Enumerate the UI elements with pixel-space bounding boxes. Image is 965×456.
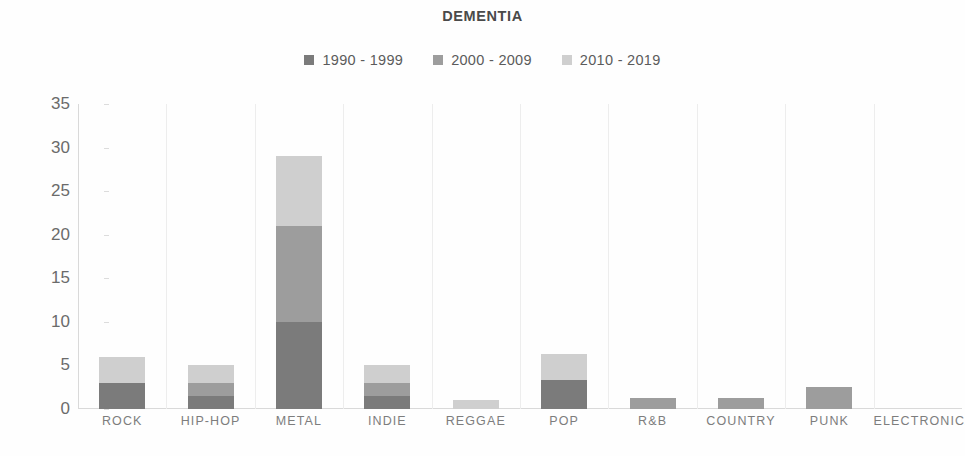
bar-segment[interactable] [364,383,410,396]
x-tick-label: ROCK [78,414,166,428]
bar-segment[interactable] [188,365,234,382]
x-axis-tick-labels: ROCKHIP-HOPMETALINDIEREGGAEPOPR&BCOUNTRY… [78,414,962,436]
x-tick-label: HIP-HOP [166,414,254,428]
y-tick-mark [104,409,109,410]
category-gridline [343,104,344,409]
y-tick-label: 10 [30,312,70,332]
y-tick-label: 20 [30,225,70,245]
bar-segment[interactable] [99,357,145,383]
bar-segment[interactable] [453,400,499,409]
bar-segment[interactable] [718,398,764,409]
bar-column[interactable] [806,387,852,409]
bar-segment[interactable] [630,398,676,409]
category-gridline [255,104,256,409]
category-gridline [785,104,786,409]
bar-column[interactable] [99,357,145,409]
chart-container: DEMENTIA 1990 - 19992000 - 20092010 - 20… [0,0,965,456]
y-tick-label: 25 [30,181,70,201]
y-tick-label: 30 [30,138,70,158]
bar-column[interactable] [541,354,587,409]
bar-column[interactable] [276,156,322,409]
bar-segment[interactable] [806,387,852,409]
legend-item-3[interactable]: 2010 - 2019 [562,52,661,68]
x-tick-label: INDIE [343,414,431,428]
bar-segment[interactable] [276,156,322,226]
bar-column[interactable] [453,400,499,409]
y-tick-label: 15 [30,268,70,288]
bar-segment[interactable] [364,396,410,409]
x-tick-label: ELECTRONICA [874,414,962,428]
chart-legend: 1990 - 19992000 - 20092010 - 2019 [0,52,965,68]
bar-segment[interactable] [188,396,234,409]
bar-segment[interactable] [276,322,322,409]
legend-label: 2010 - 2019 [580,52,661,68]
bar-segment[interactable] [99,383,145,409]
x-tick-label: REGGAE [432,414,520,428]
category-gridline [874,104,875,409]
y-tick-label: 5 [30,355,70,375]
legend-item-1[interactable]: 1990 - 1999 [304,52,403,68]
legend-label: 1990 - 1999 [322,52,403,68]
x-tick-label: PUNK [785,414,873,428]
legend-item-2[interactable]: 2000 - 2009 [433,52,532,68]
bar-segment[interactable] [364,365,410,382]
plot-area [78,104,962,409]
bar-segment[interactable] [541,380,587,409]
x-tick-label: COUNTRY [697,414,785,428]
bar-segment[interactable] [188,383,234,396]
category-gridline [166,104,167,409]
legend-swatch-icon [562,55,572,65]
bar-column[interactable] [630,398,676,409]
bar-column[interactable] [364,365,410,409]
bar-segment[interactable] [541,354,587,380]
category-gridline [520,104,521,409]
legend-swatch-icon [304,55,314,65]
bar-column[interactable] [718,398,764,409]
y-axis-tick-labels: 05101520253035 [26,104,70,409]
category-gridline [697,104,698,409]
x-tick-label: R&B [608,414,696,428]
y-tick-label: 0 [30,399,70,419]
legend-swatch-icon [433,55,443,65]
x-tick-label: POP [520,414,608,428]
bar-segment[interactable] [276,226,322,322]
bar-column[interactable] [188,365,234,409]
x-tick-label: METAL [255,414,343,428]
legend-label: 2000 - 2009 [451,52,532,68]
y-tick-label: 35 [30,94,70,114]
chart-title: DEMENTIA [0,8,965,24]
category-gridline [432,104,433,409]
category-gridline [608,104,609,409]
